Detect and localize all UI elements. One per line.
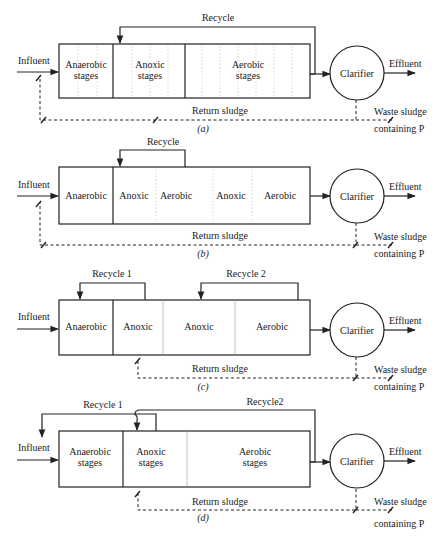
clarifier-label: Clarifier <box>340 325 375 336</box>
zone-label: stages <box>138 70 163 81</box>
recycle-1-line <box>80 283 145 300</box>
zone-label: Anaerobic <box>65 59 107 70</box>
caption-d: (d) <box>197 512 209 524</box>
diagram-c: Influent Anaerobic Anoxic Anoxic Aerobic… <box>17 268 427 393</box>
zone-label: Anoxic <box>135 59 165 70</box>
effluent-label: Effluent <box>389 181 422 192</box>
return-sludge-label: Return sludge <box>192 230 248 241</box>
process-flow-figure: Influent Anaerobic stages Anoxic stages … <box>0 0 438 537</box>
influent-label: Influent <box>18 311 50 322</box>
effluent-label: Effluent <box>389 315 422 326</box>
zone-label: Anoxic <box>184 321 214 332</box>
zone-label: Anaerobic <box>65 190 107 201</box>
caption-c: (c) <box>197 381 209 393</box>
recycle-label: Recycle 1 <box>92 268 132 279</box>
zone-label: Aerobic <box>239 446 272 457</box>
zone-label: Anaerobic <box>65 321 107 332</box>
waste-sludge-label: containing P <box>374 518 425 529</box>
clarifier-label: Clarifier <box>340 191 375 202</box>
recycle-label: Recycle <box>147 136 180 147</box>
influent-label: Influent <box>18 442 50 453</box>
return-sludge-label: Return sludge <box>192 363 248 374</box>
clarifier-label: Clarifier <box>340 68 375 79</box>
waste-sludge-label: containing P <box>374 381 425 392</box>
zone-label: Anaerobic <box>69 446 111 457</box>
zone-label: Aerobic <box>264 190 297 201</box>
zone-label: Aerobic <box>160 190 193 201</box>
diagram-b: Influent Anaerobic Anoxic Aerobic Anoxic… <box>17 136 427 260</box>
caption-a: (a) <box>197 123 209 135</box>
waste-sludge-label: Waste sludge <box>374 496 427 507</box>
zone-label: Aerobic <box>256 321 289 332</box>
caption-b: (b) <box>197 248 209 260</box>
waste-sludge-label: containing P <box>374 123 425 134</box>
diagram-a: Influent Anaerobic stages Anoxic stages … <box>17 12 427 135</box>
effluent-label: Effluent <box>389 58 422 69</box>
zone-label: Aerobic <box>232 59 265 70</box>
recycle-label: Recycle <box>202 12 235 23</box>
return-sludge-label: Return sludge <box>192 105 248 116</box>
zone-label: stages <box>78 457 103 468</box>
recycle-2-line <box>201 283 298 300</box>
waste-sludge-label: Waste sludge <box>374 364 427 375</box>
zone-label: stages <box>74 70 99 81</box>
waste-sludge-label: Waste sludge <box>374 231 427 242</box>
effluent-label: Effluent <box>389 446 422 457</box>
zone-label: Anoxic <box>216 190 246 201</box>
return-sludge-label: Return sludge <box>192 496 248 507</box>
influent-label: Influent <box>18 55 50 66</box>
zone-label: stages <box>236 70 261 81</box>
zone-label: stages <box>139 457 164 468</box>
diagram-d: Influent Anaerobic stages Anoxic stages … <box>17 396 427 529</box>
recycle-label: Recycle 1 <box>83 399 123 410</box>
recycle-label: Recycle2 <box>246 396 283 407</box>
waste-sludge-label: Waste sludge <box>374 106 427 117</box>
recycle-line <box>120 150 185 167</box>
zone-label: stages <box>243 457 268 468</box>
clarifier-label: Clarifier <box>340 456 375 467</box>
zone-label: Anoxic <box>123 321 153 332</box>
waste-sludge-label: containing P <box>374 248 425 259</box>
influent-label: Influent <box>18 179 50 190</box>
zone-label: Anoxic <box>119 190 149 201</box>
recycle-label: Recycle 2 <box>226 268 266 279</box>
zone-label: Anoxic <box>136 446 166 457</box>
